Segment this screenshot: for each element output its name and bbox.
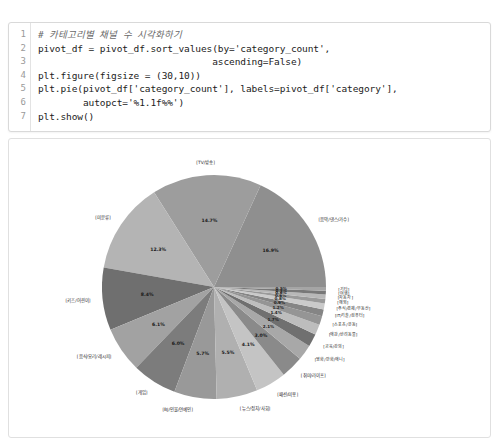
pie-slice-label: [취미/라이프]: [301, 372, 326, 379]
line-number: 7: [9, 110, 26, 124]
pie-slice-label: [BJ/인물/연예인]: [162, 406, 193, 413]
pie-chart-svg: 16.9%[음악/댄스/가수]14.7%[TV/방송]12.3%[미분류]8.4…: [9, 139, 490, 437]
line-number: 5: [9, 82, 26, 96]
pie-slice-label: [음식/요리/레시피]: [77, 353, 112, 360]
pie-slice-label: [애완/반려동물]: [329, 331, 358, 337]
pie-slice-percentage: 3.0%: [255, 333, 268, 338]
line-number: 1: [9, 28, 26, 42]
pie-chart: 16.9%[음악/댄스/가수]14.7%[TV/방송]12.3%[미분류]8.4…: [9, 139, 490, 437]
pie-slice-percentage: 5.5%: [222, 350, 235, 355]
pie-slice-percentage: 1.7%: [267, 317, 278, 322]
pie-slice-label: [TV/방송]: [196, 159, 215, 165]
pie-slice-label: [패션/미용]: [277, 391, 298, 398]
notebook-page: 1 2 3 4 5 6 7 # 카테고리별 채널 수 시각화하기 pivot_d…: [0, 0, 504, 447]
code-line: autopct='%1.1f%%'): [38, 96, 398, 110]
pie-slice-percentage: 1.4%: [270, 310, 281, 315]
pie-slice-label: [뉴스/정치/사회]: [240, 405, 271, 412]
pie-slice-label: [기타]: [338, 286, 350, 292]
code-line: pivot_df = pivot_df.sort_values(by='cate…: [38, 42, 398, 56]
pie-slice-label: [키즈/어린이]: [66, 297, 91, 304]
pie-slice-percentage: 16.9%: [263, 248, 279, 253]
pie-slice-percentage: 12.3%: [150, 247, 166, 252]
pie-slice-percentage: 6.1%: [152, 322, 165, 327]
pie-slice-label: [영화/만화/애니]: [315, 356, 345, 362]
pie-slice-label: [스포츠/운동]: [333, 322, 358, 327]
pie-slice-percentage: 8.4%: [141, 292, 154, 297]
pie-slice-label: [음악/댄스/가수]: [319, 216, 350, 223]
pie-slice-percentage: 0.5%: [276, 286, 287, 291]
pie-slice-percentage: 14.7%: [201, 218, 217, 223]
code-line: # 카테고리별 채널 수 시각화하기: [38, 28, 398, 42]
pie-slice-percentage: 5.7%: [196, 351, 209, 356]
code-editor[interactable]: # 카테고리별 채널 수 시각화하기 pivot_df = pivot_df.s…: [31, 23, 398, 131]
pie-slice-percentage: 6.0%: [172, 341, 185, 346]
code-line: plt.pie(pivot_df['category_count'], labe…: [38, 82, 398, 96]
pie-slice-percentage: 4.1%: [242, 342, 255, 347]
pie-slice-percentage: 2.1%: [263, 324, 274, 329]
pie-slice-label: [IT/기술/컴퓨터]: [335, 312, 365, 318]
line-number: 6: [9, 96, 26, 110]
pie-slice-percentage: 1.2%: [272, 305, 283, 310]
code-cell[interactable]: 1 2 3 4 5 6 7 # 카테고리별 채널 수 시각화하기 pivot_d…: [8, 22, 491, 132]
code-line: plt.figure(figsize = (30,10)): [38, 69, 398, 83]
pie-slice-label: [게임]: [136, 389, 148, 396]
line-number: 2: [9, 42, 26, 56]
pie-slice-label: [교육/강의]: [323, 343, 344, 349]
code-line: ascending=False): [38, 55, 398, 69]
line-number: 3: [9, 55, 26, 69]
code-line: plt.show(): [38, 110, 398, 124]
line-number-gutter: 1 2 3 4 5 6 7: [9, 23, 31, 131]
chart-output-cell: 16.9%[음악/댄스/가수]14.7%[TV/방송]12.3%[미분류]8.4…: [8, 138, 491, 438]
pie-slice-label: [미분류]: [95, 214, 111, 221]
line-number: 4: [9, 69, 26, 83]
pie-slice-label: [주식/경제/부동산]: [336, 305, 370, 311]
